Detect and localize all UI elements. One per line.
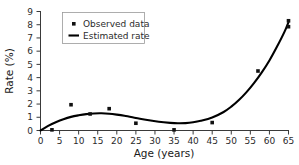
x-tick-label: 0 [38, 136, 44, 146]
y-tick-label: 1 [27, 112, 33, 122]
rate-vs-age-chart: 0123456789 Rate (%) 05101520253035404550… [0, 0, 299, 165]
chart-legend: Observed data Estimated rate [63, 13, 151, 44]
chart-container: 0123456789 Rate (%) 05101520253035404550… [0, 0, 299, 165]
y-axis-title: Rate (%) [3, 48, 15, 94]
y-tick-label: 4 [27, 73, 33, 83]
x-tick-label: 15 [92, 136, 103, 146]
legend-label-estimated-rate: Estimated rate [83, 31, 150, 41]
y-tick-label: 9 [27, 7, 33, 17]
x-tick-label: 10 [73, 136, 85, 146]
data-point-marker [256, 69, 260, 73]
y-tick-label: 2 [27, 99, 33, 109]
y-tick-label: 5 [27, 60, 33, 70]
data-point-marker [287, 25, 291, 29]
x-tick-label: 45 [206, 136, 217, 146]
x-tick-label: 55 [245, 136, 256, 146]
data-point-marker [69, 103, 73, 107]
x-tick-label: 50 [226, 136, 238, 146]
data-point-marker [134, 121, 138, 125]
y-tick-label: 7 [27, 33, 33, 43]
x-tick-label: 25 [130, 136, 141, 146]
y-tick-label: 8 [27, 20, 33, 30]
x-tick-label: 20 [111, 136, 123, 146]
x-tick-label: 60 [264, 136, 276, 146]
data-point-marker [107, 107, 111, 111]
y-tick-label: 6 [27, 46, 33, 56]
x-axis-title: Age (years) [134, 147, 195, 159]
data-point-marker [50, 128, 54, 132]
data-point-marker [287, 19, 291, 23]
x-tick-label: 35 [168, 136, 179, 146]
x-tick-label: 5 [57, 136, 63, 146]
data-point-marker [210, 121, 214, 125]
x-tick-label: 40 [187, 136, 199, 146]
y-tick-label: 3 [27, 86, 33, 96]
y-tick-label: 0 [27, 126, 33, 136]
data-point-marker [88, 112, 92, 116]
x-tick-label: 65 [283, 136, 294, 146]
legend-marker-observed-data [72, 22, 76, 26]
legend-label-observed-data: Observed data [83, 19, 149, 29]
data-point-marker [172, 128, 176, 132]
x-tick-label: 30 [149, 136, 161, 146]
